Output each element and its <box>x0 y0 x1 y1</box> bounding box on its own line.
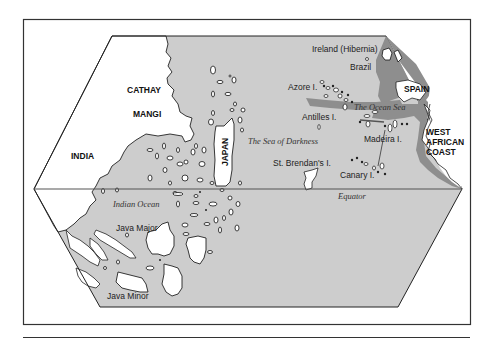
label-azore: Azore I. <box>288 82 317 92</box>
label-west-african-coast-1: WEST <box>426 127 451 137</box>
label-java-minor: Java Minor <box>107 291 149 301</box>
label-madeira: Madeira I. <box>364 134 402 144</box>
label-west-african-coast-3: COAST <box>426 147 457 157</box>
label-japan: JAPAN <box>220 138 230 166</box>
label-cathay: CATHAY <box>127 85 161 95</box>
label-mangi: MANGI <box>133 109 161 119</box>
label-antilles: Antilles I. <box>302 112 337 122</box>
label-indian-ocean: Indian Ocean <box>112 199 160 209</box>
label-india: INDIA <box>71 151 94 161</box>
label-ireland: Ireland (Hibernia) <box>312 44 378 54</box>
map-figure: CATHAY MANGI INDIA JAPAN Ireland (Hibern… <box>0 0 497 345</box>
label-canary: Canary I. <box>340 170 375 180</box>
ireland-island <box>382 48 392 60</box>
label-equator: Equator <box>337 191 367 201</box>
label-st-brendans: St. Brendan's I. <box>273 158 331 168</box>
label-ocean-sea: The Ocean Sea <box>354 102 405 112</box>
label-spain: SPAIN <box>404 84 429 94</box>
label-java-major: Java Major <box>116 223 158 233</box>
label-sea-of-darkness: The Sea of Darkness <box>248 136 319 146</box>
label-west-african-coast-2: AFRICAN <box>426 137 464 147</box>
label-brazil: Brazil <box>350 62 371 72</box>
